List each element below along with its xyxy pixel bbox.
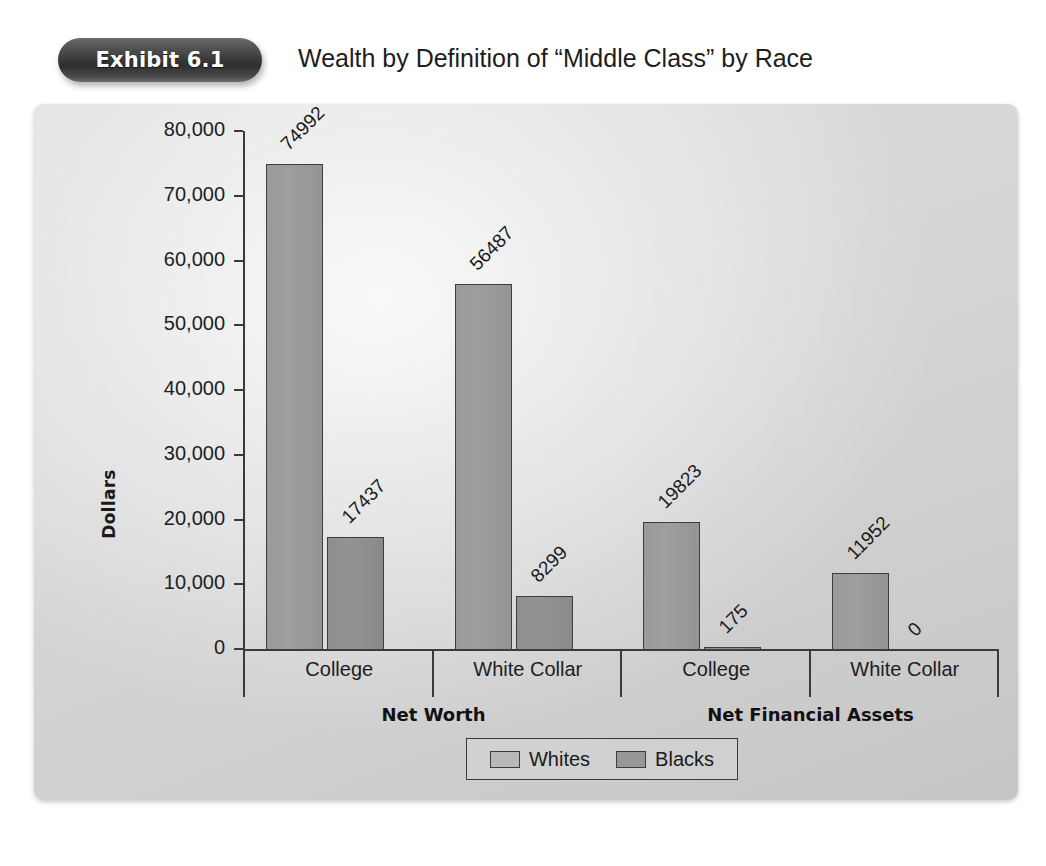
y-axis-tick xyxy=(234,648,243,650)
bar-value-label: 11952 xyxy=(842,512,894,564)
bars-layer: 749921743756487829919823175119520 xyxy=(245,131,999,650)
x-axis-group-label: Net Financial Assets xyxy=(622,704,999,725)
page-title: Wealth by Definition of “Middle Class” b… xyxy=(298,44,813,73)
legend-swatch-icon xyxy=(490,751,520,768)
y-axis-tick xyxy=(234,519,243,521)
y-axis-tick xyxy=(234,195,243,197)
y-axis-tick-label: 70,000 xyxy=(133,183,225,206)
exhibit-badge-label: Exhibit 6.1 xyxy=(95,48,224,72)
bar-whites xyxy=(832,573,889,650)
bar-value-label: 74992 xyxy=(277,104,330,155)
bar-blacks xyxy=(704,647,761,650)
y-axis-tick-label: 0 xyxy=(133,636,225,659)
y-axis-tick-label: 20,000 xyxy=(133,507,225,530)
y-axis-tick xyxy=(234,583,243,585)
y-axis-tick-label: 10,000 xyxy=(133,571,225,594)
exhibit-header: Exhibit 6.1 Wealth by Definition of “Mid… xyxy=(0,0,1046,100)
y-axis-tick xyxy=(234,130,243,132)
chart-legend: WhitesBlacks xyxy=(466,738,738,780)
exhibit-badge: Exhibit 6.1 xyxy=(58,38,262,82)
bar-value-label: 17437 xyxy=(338,475,391,528)
legend-item: Whites xyxy=(490,748,590,771)
x-axis-group-label: Net Worth xyxy=(245,704,622,725)
bar-chart-plot: Dollars 80,00070,00060,00050,00040,00030… xyxy=(34,104,1018,800)
legend-label: Whites xyxy=(529,748,590,771)
legend-swatch-icon xyxy=(616,751,646,768)
x-axis-category-label: College xyxy=(245,658,434,681)
bar-blacks xyxy=(327,537,384,650)
y-axis-tick-label: 80,000 xyxy=(133,118,225,141)
bar-whites xyxy=(455,284,512,650)
bar-value-label: 175 xyxy=(715,600,753,638)
y-axis-title: Dollars xyxy=(99,424,119,584)
legend-label: Blacks xyxy=(655,748,714,771)
x-axis-category-label: College xyxy=(622,658,811,681)
chart-panel: Dollars 80,00070,00060,00050,00040,00030… xyxy=(34,104,1018,800)
y-axis-tick-label: 40,000 xyxy=(133,377,225,400)
x-axis-category-label: White Collar xyxy=(434,658,623,681)
y-axis-tick xyxy=(234,260,243,262)
bar-blacks xyxy=(516,596,573,650)
y-axis-tick-label: 60,000 xyxy=(133,248,225,271)
bar-whites xyxy=(266,164,323,650)
x-axis-category-label: White Collar xyxy=(811,658,1000,681)
bar-value-label: 19823 xyxy=(654,460,707,513)
y-axis-tick-label: 30,000 xyxy=(133,442,225,465)
y-axis-tick xyxy=(234,324,243,326)
bar-value-label: 56487 xyxy=(465,222,518,275)
y-axis-tick-label: 50,000 xyxy=(133,312,225,335)
bar-whites xyxy=(643,522,700,650)
legend-item: Blacks xyxy=(616,748,714,771)
y-axis-tick xyxy=(234,389,243,391)
bar-value-label: 0 xyxy=(903,618,926,641)
y-axis-tick xyxy=(234,454,243,456)
bar-value-label: 8299 xyxy=(526,542,571,587)
